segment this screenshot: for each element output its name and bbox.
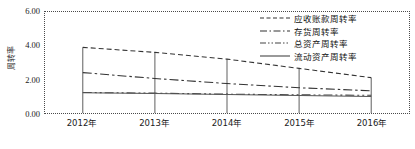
y-axis-tick: 6.00: [6, 7, 40, 15]
y-axis-tick: 2.00: [6, 76, 40, 84]
x-axis-tick: 2014年: [197, 116, 257, 128]
legend-line-swatch-icon: [258, 38, 292, 48]
x-axis-tick: 2012年: [52, 116, 112, 128]
legend-item-label: 流动资产周转率: [292, 50, 357, 62]
y-axis-tick: 0.00: [6, 110, 40, 118]
legend-line-swatch-icon: [258, 26, 292, 36]
legend-item-label: 应收账款周转率: [292, 12, 357, 24]
turnover-ratio-line-chart: 周转率 0.002.004.006.00 2012年2013年2014年2015…: [0, 0, 415, 149]
legend-item-3[interactable]: 流动资产周转率: [258, 50, 408, 63]
legend-item-label: 总资产周转率: [292, 37, 348, 49]
legend-item-2[interactable]: 总资产周转率: [258, 37, 408, 50]
legend-line-swatch-icon: [258, 51, 292, 61]
x-axis-tick-labels: 2012年2013年2014年2015年2016年: [44, 116, 410, 136]
y-axis-tick: 4.00: [6, 41, 40, 49]
legend-item-0[interactable]: 应收账款周转率: [258, 12, 408, 25]
legend-line-swatch-icon: [258, 13, 292, 23]
x-axis-tick: 2013年: [125, 116, 185, 128]
legend-item-label: 存货周转率: [292, 25, 339, 37]
legend-item-1[interactable]: 存货周转率: [258, 25, 408, 38]
x-axis-tick: 2015年: [270, 116, 330, 128]
y-axis-tick-labels: 0.002.004.006.00: [4, 0, 40, 149]
chart-legend: 应收账款周转率存货周转率总资产周转率流动资产周转率: [258, 12, 408, 62]
x-axis-tick: 2016年: [342, 116, 402, 128]
